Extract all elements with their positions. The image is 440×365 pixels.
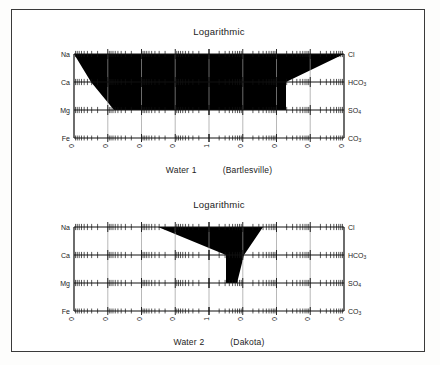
x-tick-10000-right: 10,000 xyxy=(338,317,345,321)
stiff-chart-water-2: Na Ca Mg Fe Cl HCO3 SO4 CO3 10,0001,0001… xyxy=(12,209,426,321)
ion-label-cl-top: Cl xyxy=(348,51,355,58)
x-tick-100-right: 100 xyxy=(271,144,278,148)
x-tick-10-left: 10 xyxy=(169,317,176,321)
caption-water-1: Water 1(Bartlesville) xyxy=(12,165,426,175)
x-tick-1000-left: 1,000 xyxy=(102,144,109,148)
x-tick-100-left: 100 xyxy=(136,317,143,321)
caption-name-bottom: Water 2 xyxy=(173,337,204,347)
x-tick-1-center: 1 xyxy=(203,144,210,148)
ion-label-fe-top: Fe xyxy=(62,135,70,142)
ion-label-ca-top: Ca xyxy=(61,79,70,86)
ion-label-hco3-top: HCO3 xyxy=(348,79,367,88)
ion-label-na-top: Na xyxy=(61,51,70,58)
ion-label-co3-bottom: CO3 xyxy=(348,308,362,317)
ion-label-so4-bottom: SO4 xyxy=(348,280,361,289)
panel-water-1: Logarithmic xyxy=(12,12,426,182)
x-tick-10-left: 10 xyxy=(169,144,176,148)
caption-water-2: Water 2(Dakota) xyxy=(12,337,426,347)
x-tick-labels-bottom: 10,0001,000100101101001,00010,000 xyxy=(68,317,345,321)
x-tick-10-right: 10 xyxy=(237,144,244,148)
x-tick-1000-right: 1,000 xyxy=(304,317,311,321)
caption-place-bottom: (Dakota) xyxy=(230,337,264,347)
x-tick-100-right: 100 xyxy=(271,317,278,321)
x-tick-10000-left: 10,000 xyxy=(68,317,75,321)
x-tick-100-left: 100 xyxy=(136,144,143,148)
x-tick-1-center: 1 xyxy=(203,317,210,321)
x-tick-1000-left: 1,000 xyxy=(102,317,109,321)
stiff-chart-svg-top: Na Ca Mg Fe Cl HCO3 SO4 CO3 10,0001,0001… xyxy=(12,36,426,148)
figure-page: Logarithmic xyxy=(0,0,440,365)
ion-label-ca-bottom: Ca xyxy=(61,252,70,259)
caption-place-top: (Bartlesville) xyxy=(223,165,273,175)
panel-water-2: Logarithmic xyxy=(12,186,426,351)
x-tick-10-right: 10 xyxy=(237,317,244,321)
figure-border: Logarithmic xyxy=(11,9,425,352)
stiff-chart-water-1: Na Ca Mg Fe Cl HCO3 SO4 CO3 10,0001,0001… xyxy=(12,36,426,148)
ion-label-hco3-bottom: HCO3 xyxy=(348,252,367,261)
ion-label-cl-bottom: Cl xyxy=(348,224,355,231)
caption-name-top: Water 1 xyxy=(166,165,197,175)
stiff-chart-svg-bottom: Na Ca Mg Fe Cl HCO3 SO4 CO3 10,0001,0001… xyxy=(12,209,426,321)
ion-label-so4-top: SO4 xyxy=(348,107,361,116)
x-tick-10000-right: 10,000 xyxy=(338,144,345,148)
x-tick-labels-top: 10,0001,000100101101001,00010,000 xyxy=(68,144,345,148)
ion-label-co3-top: CO3 xyxy=(348,135,362,144)
ion-label-na-bottom: Na xyxy=(61,224,70,231)
gridlines-bottom xyxy=(74,227,344,311)
ion-label-fe-bottom: Fe xyxy=(62,308,70,315)
ion-label-mg-top: Mg xyxy=(60,107,70,115)
x-tick-10000-left: 10,000 xyxy=(68,144,75,148)
x-tick-1000-right: 1,000 xyxy=(304,144,311,148)
ion-label-mg-bottom: Mg xyxy=(60,280,70,288)
